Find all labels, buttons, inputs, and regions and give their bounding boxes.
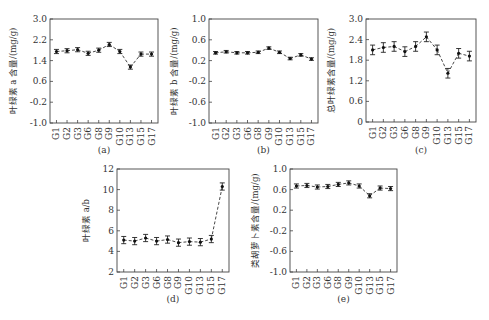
y-tick-label: 1.8: [349, 55, 364, 65]
data-point: [403, 50, 406, 53]
series-line-segment: [258, 48, 269, 52]
y-tick-label: 0.6: [33, 76, 48, 86]
x-tick-label: G10: [115, 127, 125, 146]
data-point: [235, 51, 238, 54]
figure: -1.0-0.20.61.42.23.0G1G2G3G6G8G9G10G13G1…: [0, 0, 489, 320]
y-tick-label: 12: [103, 164, 114, 174]
x-tick-label: G17: [147, 127, 157, 146]
data-point: [368, 194, 371, 197]
plot-frame: [366, 19, 476, 122]
x-tick-label: G6: [400, 126, 410, 139]
y-tick-label: 1.2: [349, 76, 363, 86]
chart-panel-b: -1.0-0.6-0.20.20.61.0G1G2G3G6G8G9G10G13G…: [169, 14, 318, 155]
x-tick-label: G1: [51, 127, 61, 140]
series-line-segment: [426, 37, 437, 50]
x-tick-label: G9: [264, 127, 274, 140]
x-tick-label: G13: [285, 127, 295, 146]
x-tick-label: G6: [243, 127, 253, 140]
data-point: [382, 46, 385, 49]
data-point: [246, 51, 249, 54]
chart-panel-a: -1.0-0.20.61.42.23.0G1G2G3G6G8G9G10G13G1…: [8, 14, 158, 155]
y-tick-label: 1.0: [273, 164, 288, 174]
data-point: [457, 52, 460, 55]
data-point: [436, 48, 439, 51]
data-point: [199, 241, 202, 244]
x-tick-label: G3: [232, 127, 242, 140]
data-point: [150, 53, 153, 56]
series-line-segment: [459, 53, 470, 56]
x-tick-label: G10: [354, 276, 364, 295]
y-tick-label: 8: [108, 205, 114, 215]
x-tick-label: G3: [73, 127, 83, 140]
y-tick-label: 0.6: [273, 185, 288, 195]
x-tick-label: G9: [104, 127, 114, 140]
data-point: [139, 53, 142, 56]
x-tick-label: G1: [211, 127, 221, 140]
x-tick-label: G17: [464, 126, 474, 145]
x-tick-label: G17: [306, 127, 316, 146]
x-tick-label: G13: [365, 276, 375, 295]
series-line-segment: [135, 238, 146, 241]
y-tick-label: 2.2: [33, 35, 47, 45]
x-tick-label: G2: [62, 127, 72, 140]
data-point: [414, 45, 417, 48]
y-tick-label: 0.2: [192, 56, 206, 66]
series-line-segment: [99, 44, 110, 50]
data-point: [129, 66, 132, 69]
data-point: [108, 43, 111, 46]
data-point: [305, 184, 308, 187]
series-line-segment: [109, 44, 120, 51]
x-tick-label: G13: [443, 126, 453, 145]
y-axis-label: 叶绿素 a 含量/(mg/g): [8, 28, 18, 115]
y-tick-label: 0: [357, 117, 363, 127]
data-point: [289, 57, 292, 60]
y-tick-label: -0.6: [189, 97, 207, 107]
x-tick-label: G17: [386, 276, 396, 295]
x-tick-label: G8: [163, 276, 173, 289]
series-line-segment: [437, 50, 448, 73]
x-tick-label: G15: [296, 127, 306, 146]
panel-label: (d): [167, 294, 180, 304]
series-line-segment: [373, 47, 384, 49]
x-tick-label: G3: [141, 276, 151, 289]
data-point: [144, 236, 147, 239]
y-tick-label: 1.4: [33, 56, 48, 66]
data-point: [87, 52, 90, 55]
data-point: [278, 51, 281, 54]
series-line-segment: [157, 240, 168, 242]
y-tick-label: 10: [103, 185, 115, 195]
x-tick-label: G6: [323, 276, 333, 289]
x-tick-label: G9: [421, 126, 431, 139]
panel-label: (b): [257, 145, 270, 155]
data-point: [393, 45, 396, 48]
y-tick-label: 3.0: [349, 14, 364, 24]
chart-panel-d: 24681012G1G2G3G6G8G9G10G13G15G17叶绿素 a/b(…: [81, 164, 229, 304]
y-tick-label: -0.2: [30, 97, 47, 107]
series-line-segment: [200, 239, 211, 242]
data-point: [337, 183, 340, 186]
y-tick-label: -1.0: [30, 118, 48, 128]
data-point: [310, 57, 313, 60]
data-point: [257, 51, 260, 54]
x-tick-label: G15: [206, 276, 216, 295]
data-point: [97, 49, 100, 52]
x-tick-label: G2: [130, 276, 140, 289]
data-point: [468, 54, 471, 57]
x-tick-label: G1: [291, 276, 301, 289]
series-line-segment: [146, 238, 157, 241]
x-tick-label: G3: [389, 126, 399, 139]
data-point: [210, 237, 213, 240]
x-tick-label: G3: [312, 276, 322, 289]
x-tick-label: G13: [195, 276, 205, 295]
data-point: [188, 240, 191, 243]
data-point: [425, 35, 428, 38]
data-point: [379, 186, 382, 189]
x-tick-label: G2: [221, 127, 231, 140]
y-tick-label: -1.0: [189, 118, 207, 128]
series-line-segment: [290, 55, 301, 59]
y-axis-label: 叶绿素 b 含量/(mg/g): [169, 27, 179, 114]
series-line-segment: [211, 187, 222, 240]
data-point: [55, 50, 58, 53]
plot-frame: [209, 19, 318, 123]
x-tick-label: G10: [432, 126, 442, 145]
